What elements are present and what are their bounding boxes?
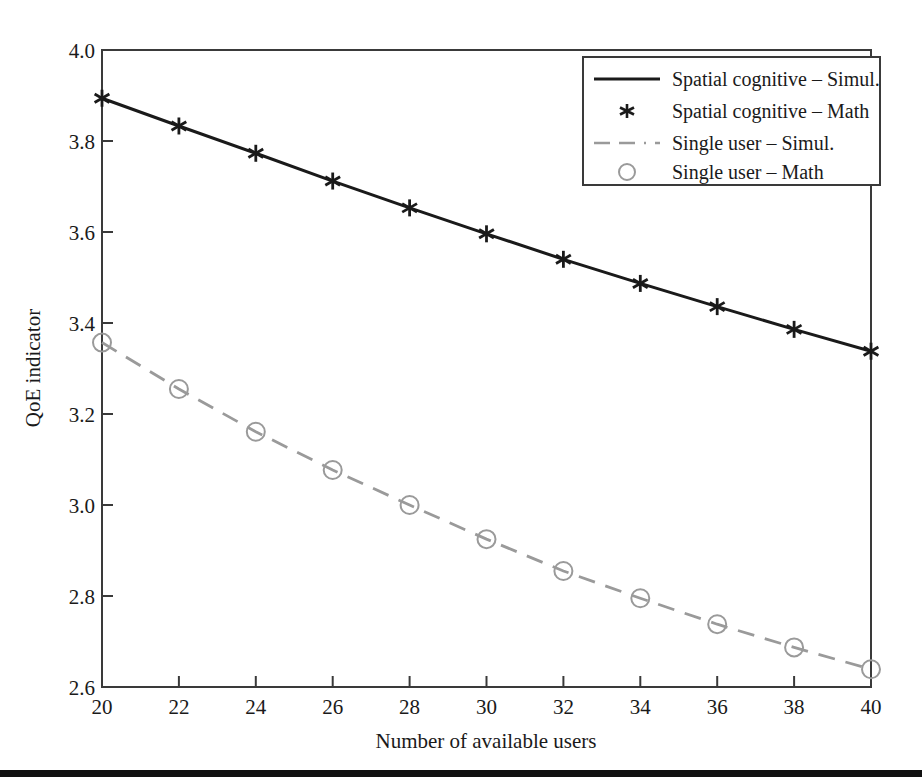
data-marker-asterisk xyxy=(556,251,571,268)
data-marker-asterisk xyxy=(172,117,187,134)
data-marker-asterisk xyxy=(325,173,340,190)
x-tick-label: 36 xyxy=(707,695,728,719)
qoe-line-chart: 4.0 3.8 3.6 3.4 3.2 3.0 2.8 2.6 20 22 24… xyxy=(0,0,922,783)
x-tick-label: 26 xyxy=(322,695,343,719)
y-tick-label: 2.8 xyxy=(69,585,95,609)
data-marker-asterisk xyxy=(95,90,110,107)
y-axis-ticks xyxy=(102,50,113,687)
legend-label: Spatial cognitive – Math xyxy=(672,100,869,123)
data-marker-asterisk xyxy=(479,225,494,242)
y-tick-label: 3.4 xyxy=(69,312,96,336)
x-tick-label: 30 xyxy=(476,695,497,719)
y-tick-label: 3.8 xyxy=(69,130,95,154)
series-single-user-simul xyxy=(102,343,871,670)
x-tick-label: 22 xyxy=(168,695,189,719)
legend-label: Spatial cognitive – Simul. xyxy=(672,68,880,91)
legend-label: Single user – Math xyxy=(672,161,824,184)
y-tick-label: 4.0 xyxy=(69,39,95,63)
legend: Spatial cognitive – Simul. Spatial cogni… xyxy=(583,57,880,185)
data-marker-asterisk xyxy=(402,199,417,216)
figure-container: 4.0 3.8 3.6 3.4 3.2 3.0 2.8 2.6 20 22 24… xyxy=(0,0,922,783)
y-axis-title: QoE indicator xyxy=(21,309,45,427)
x-tick-label: 38 xyxy=(784,695,805,719)
x-tick-label: 20 xyxy=(92,695,113,719)
series-single-user-math xyxy=(93,334,880,679)
legend-label: Single user – Simul. xyxy=(672,132,834,155)
x-tick-label: 24 xyxy=(245,695,267,719)
x-axis-title: Number of available users xyxy=(375,729,596,753)
data-marker-asterisk xyxy=(248,145,263,162)
x-tick-label: 40 xyxy=(861,695,882,719)
y-tick-labels: 4.0 3.8 3.6 3.4 3.2 3.0 2.8 2.6 xyxy=(69,39,96,700)
x-tick-label: 28 xyxy=(399,695,420,719)
page-bottom-rule xyxy=(0,770,922,777)
x-axis-ticks xyxy=(102,676,871,687)
x-tick-label: 32 xyxy=(553,695,574,719)
y-tick-label: 3.6 xyxy=(69,221,95,245)
data-line-dashed xyxy=(102,343,871,670)
x-tick-labels: 20 22 24 26 28 30 32 34 36 38 40 xyxy=(92,695,882,719)
x-tick-label: 34 xyxy=(630,695,652,719)
y-tick-label: 3.0 xyxy=(69,494,95,518)
y-tick-label: 3.2 xyxy=(69,403,95,427)
